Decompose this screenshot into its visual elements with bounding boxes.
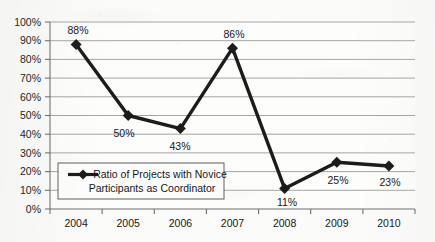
y-axis-label-100: 100% <box>14 16 41 28</box>
y-axis-label-20: 20% <box>20 165 41 177</box>
y-axis-tick-labels: 100% 90% 80% 70% 60% 50% 40% 30% 20% 10%… <box>14 16 41 215</box>
data-label-2005: 50% <box>113 127 134 139</box>
x-axis-ticks <box>50 209 415 214</box>
data-label-2007: 86% <box>223 28 244 40</box>
x-axis-label-2007: 2007 <box>221 217 245 229</box>
y-axis-label-60: 60% <box>20 91 41 103</box>
y-axis-label-80: 80% <box>20 53 41 65</box>
x-axis-label-2004: 2004 <box>64 217 88 229</box>
data-label-2010: 23% <box>379 176 400 188</box>
y-axis-label-30: 30% <box>20 147 41 159</box>
y-axis-label-70: 70% <box>20 72 41 84</box>
data-label-2008: 11% <box>277 196 297 208</box>
chart-screenshot: 100% 90% 80% 70% 60% 50% 40% 30% 20% 10%… <box>0 0 435 242</box>
legend-label-line2: Participants as Coordinator <box>89 182 216 194</box>
y-axis-ticks <box>45 22 50 209</box>
x-axis-label-2010: 2010 <box>377 217 401 229</box>
data-label-2004: 88% <box>67 24 88 36</box>
y-axis-label-50: 50% <box>20 109 41 121</box>
y-axis-label-40: 40% <box>20 128 41 140</box>
x-axis-label-2006: 2006 <box>169 217 193 229</box>
chart-legend[interactable]: Ratio of Projects with Novice Participan… <box>58 163 227 199</box>
y-axis-label-90: 90% <box>20 34 41 46</box>
y-axis-label-0: 0% <box>26 203 41 215</box>
line-chart: 100% 90% 80% 70% 60% 50% 40% 30% 20% 10%… <box>0 0 435 242</box>
legend-label-line1: Ratio of Projects with Novice <box>93 168 227 180</box>
data-label-2006: 43% <box>169 140 190 152</box>
x-axis-label-2008: 2008 <box>273 217 297 229</box>
y-axis-label-10: 10% <box>20 184 41 196</box>
data-label-2009: 25% <box>327 174 348 186</box>
x-axis-label-2009: 2009 <box>325 217 349 229</box>
x-axis-tick-labels: 2004 2005 2006 2007 2008 2009 2010 <box>64 217 400 229</box>
x-axis-label-2005: 2005 <box>117 217 141 229</box>
